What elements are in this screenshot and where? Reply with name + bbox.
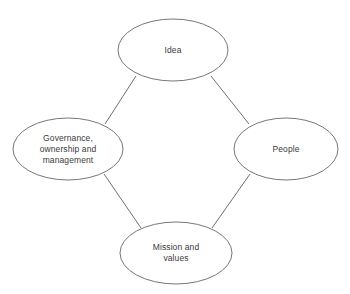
diagram-canvas: Idea Governance, ownership and managemen…	[0, 0, 350, 294]
node-shape-group	[13, 19, 338, 284]
connector-people-mission	[212, 174, 250, 228]
connector-group	[104, 76, 250, 228]
node-ellipse-governance[interactable]	[13, 118, 123, 180]
node-ellipse-idea[interactable]	[118, 19, 228, 81]
connector-governance-mission	[104, 174, 141, 228]
connector-idea-people	[211, 76, 249, 124]
node-ellipse-people[interactable]	[234, 118, 338, 180]
node-ellipse-mission[interactable]	[120, 222, 232, 284]
connector-idea-governance	[105, 76, 136, 124]
diagram-graphics	[0, 0, 350, 294]
